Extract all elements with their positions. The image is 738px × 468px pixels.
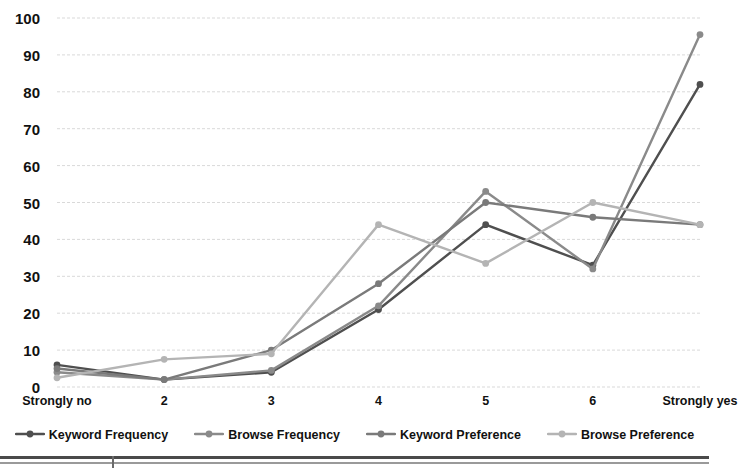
legend-label: Browse Preference	[581, 428, 694, 442]
series-3	[54, 199, 704, 381]
data-point	[697, 221, 704, 228]
plot-area	[0, 0, 709, 400]
x-axis-tick-label: 5	[482, 394, 489, 408]
data-point	[589, 214, 596, 221]
data-point	[268, 350, 275, 357]
x-axis-tick-label: 4	[375, 394, 382, 408]
footer-divider-secondary	[0, 462, 709, 464]
chart-legend: Keyword FrequencyBrowse FrequencyKeyword…	[0, 424, 709, 446]
data-point	[589, 266, 596, 273]
footer-divider-tick	[112, 456, 114, 468]
data-point	[54, 365, 61, 372]
legend-item-1[interactable]: Browse Frequency	[194, 426, 340, 444]
data-point	[375, 280, 382, 287]
data-point	[482, 199, 489, 206]
data-point	[589, 199, 596, 206]
legend-item-3[interactable]: Browse Preference	[547, 426, 694, 444]
footer-divider	[0, 456, 709, 459]
x-axis-tick-label: 3	[268, 394, 275, 408]
series-line	[57, 203, 700, 378]
data-point	[482, 188, 489, 195]
data-point	[375, 221, 382, 228]
data-point	[482, 260, 489, 267]
data-point	[268, 367, 275, 374]
x-axis: Strongly no23456Strongly yes	[0, 392, 709, 414]
x-axis-tick-label: Strongly yes	[662, 394, 737, 408]
x-axis-tick-label: 2	[161, 394, 168, 408]
series-0	[54, 81, 704, 383]
data-point	[375, 302, 382, 309]
data-point	[482, 221, 489, 228]
legend-label: Keyword Frequency	[49, 428, 168, 442]
series-line	[57, 35, 700, 380]
data-point	[697, 31, 704, 38]
legend-item-2[interactable]: Keyword Preference	[366, 426, 521, 444]
legend-marker-icon	[366, 426, 396, 444]
x-axis-tick-label: Strongly no	[22, 394, 91, 408]
series-1	[54, 31, 704, 383]
legend-marker-icon	[15, 426, 45, 444]
legend-marker-icon	[547, 426, 577, 444]
data-point	[161, 376, 168, 383]
legend-marker-icon	[194, 426, 224, 444]
data-point	[161, 356, 168, 363]
series-line	[57, 203, 700, 380]
data-point	[54, 374, 61, 381]
x-axis-tick-label: 6	[589, 394, 596, 408]
legend-label: Browse Frequency	[228, 428, 340, 442]
legend-item-0[interactable]: Keyword Frequency	[15, 426, 168, 444]
legend-label: Keyword Preference	[400, 428, 521, 442]
data-point	[697, 81, 704, 88]
